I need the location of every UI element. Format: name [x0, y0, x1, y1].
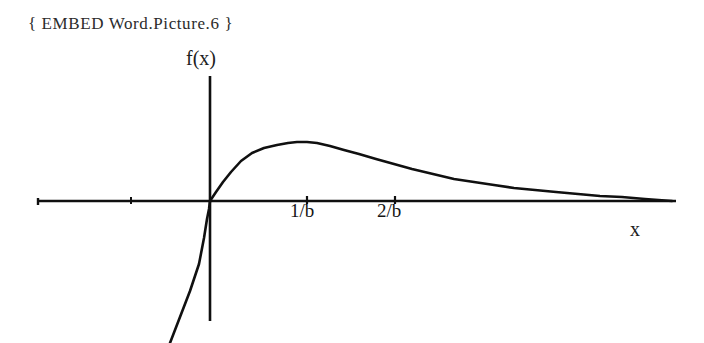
curve-fx — [170, 142, 672, 343]
x-tick-label-1-over-b: 1/b — [290, 200, 314, 222]
scanned-figure-page: { EMBED Word.Picture.6 } f(x) x 1/b 2/b — [0, 0, 704, 343]
x-axis-label: x — [630, 218, 640, 241]
y-axis-label: f(x) — [186, 47, 216, 70]
x-tick-label-2-over-b: 2/b — [377, 200, 401, 222]
function-plot — [0, 0, 704, 343]
